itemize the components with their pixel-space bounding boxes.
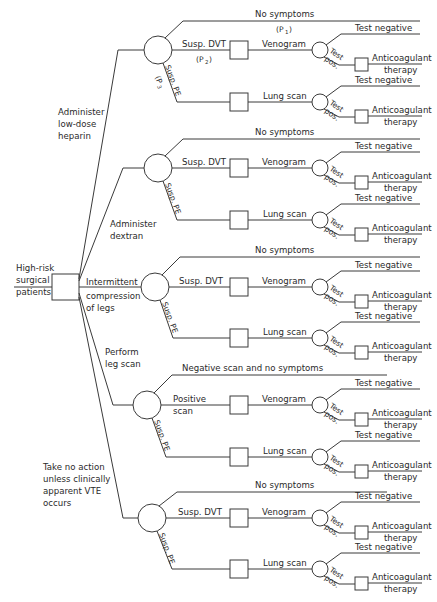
venogram-unit: Venogram Test negative Test pos. Anticoa… [230, 491, 432, 543]
svg-text:Susp. DVT: Susp. DVT [179, 276, 224, 286]
svg-text:(P: (P [196, 55, 204, 64]
svg-text:Lung scan: Lung scan [263, 327, 307, 337]
svg-text:therapy: therapy [384, 584, 417, 594]
venogram-unit: Venogram Test negative Test pos. Anticoa… [230, 378, 432, 430]
svg-text:2: 2 [205, 59, 209, 65]
subtree-no-action: No symptoms Susp. DVT Susp. PE [138, 480, 387, 569]
svg-text:Lung scan: Lung scan [263, 558, 307, 568]
svg-text:Venogram: Venogram [262, 276, 306, 286]
svg-text:therapy: therapy [384, 472, 417, 482]
venogram-unit: Venogram Test negative Test pos. Anticoa… [230, 260, 432, 312]
svg-text:apparent VTE: apparent VTE [43, 486, 101, 496]
svg-text:leg scan: leg scan [105, 359, 141, 369]
svg-text:therapy: therapy [384, 420, 417, 430]
venogram-unit: Venogram Test negative Test pos. Anticoa… [230, 23, 432, 75]
svg-text:Test negative: Test negative [354, 311, 412, 321]
svg-text:(P: (P [153, 75, 164, 86]
svg-text:Anticoagulant: Anticoagulant [372, 460, 432, 470]
svg-text:Venogram: Venogram [262, 157, 306, 167]
svg-text:Anticoagulant: Anticoagulant [372, 223, 432, 233]
chance-node [141, 273, 169, 301]
svg-text:): ) [289, 25, 292, 34]
svg-text:Susp. DVT: Susp. DVT [178, 507, 223, 517]
svg-text:Negative scan and no symptoms: Negative scan and no symptoms [182, 363, 324, 373]
svg-text:Anticoagulant: Anticoagulant [372, 105, 432, 115]
svg-text:Anticoagulant: Anticoagulant [372, 53, 432, 63]
svg-text:Lung scan: Lung scan [263, 209, 307, 219]
root-decision-square [52, 274, 79, 300]
svg-text:): ) [209, 55, 212, 64]
svg-text:Test negative: Test negative [354, 75, 412, 85]
svg-text:Anticoagulant: Anticoagulant [372, 521, 432, 531]
svg-text:Test negative: Test negative [354, 491, 412, 501]
svg-text:Test negative: Test negative [354, 193, 412, 203]
svg-text:Venogram: Venogram [262, 394, 306, 404]
svg-text:Susp. DVT: Susp. DVT [182, 157, 227, 167]
svg-text:compression: compression [86, 291, 141, 301]
svg-text:scan: scan [173, 406, 193, 416]
pe-label: Susp. PE [163, 64, 183, 98]
lung-scan-unit: Lung scan Test negative Test pos. Antico… [230, 311, 432, 363]
svg-text:therapy: therapy [384, 117, 417, 127]
strategy-labels: Administer low-dose heparin Administer d… [42, 107, 157, 508]
svg-text:Venogram: Venogram [262, 39, 306, 49]
svg-text:Susp. PE: Susp. PE [152, 419, 172, 453]
svg-text:Test negative: Test negative [354, 542, 412, 552]
strategy-4-label: Perform [105, 347, 139, 357]
svg-text:1: 1 [285, 29, 289, 35]
svg-text:unless clinically: unless clinically [43, 474, 110, 484]
svg-text:Test negative: Test negative [354, 23, 412, 33]
svg-text:Lung scan: Lung scan [263, 446, 307, 456]
svg-text:Anticoagulant: Anticoagulant [372, 290, 432, 300]
svg-text:3: 3 [156, 84, 163, 90]
lung-scan-unit: Lung scan Test negative Test pos. Antico… [230, 542, 432, 594]
strategy-2-label: Administer [110, 219, 157, 229]
svg-text:(P: (P [276, 25, 284, 34]
svg-text:Venogram: Venogram [262, 507, 306, 517]
svg-text:therapy: therapy [384, 353, 417, 363]
svg-text:Susp. PE: Susp. PE [160, 301, 180, 335]
svg-text:Anticoagulant: Anticoagulant [372, 408, 432, 418]
lung-scan-unit: Lung scan Test negative Test pos. Antico… [230, 430, 432, 482]
svg-text:Anticoagulant: Anticoagulant [372, 171, 432, 181]
root-label-line-2: surgical [16, 275, 50, 285]
svg-text:dextran: dextran [110, 231, 143, 241]
svg-text:Anticoagulant: Anticoagulant [372, 341, 432, 351]
root-label-line-1: High-risk [16, 263, 54, 273]
svg-text:occurs: occurs [43, 498, 72, 508]
top-outcome-label: No symptoms [255, 9, 315, 19]
chance-node [138, 504, 166, 532]
test-units: Venogram Test negative Test pos. Anticoa… [230, 23, 432, 594]
svg-text:No symptoms: No symptoms [255, 127, 315, 137]
lung-scan-unit: Lung scan Test negative Test pos. Antico… [230, 75, 432, 127]
root-label-line-3: patients [16, 287, 52, 297]
chance-node [133, 391, 161, 419]
svg-text:No symptoms: No symptoms [255, 245, 315, 255]
chance-node [144, 154, 172, 182]
svg-text:Test negative: Test negative [354, 141, 412, 151]
chance-node [144, 36, 172, 64]
svg-text:Positive: Positive [173, 394, 206, 404]
svg-text:therapy: therapy [384, 65, 417, 75]
dvt-label: Susp. DVT [182, 39, 227, 49]
svg-text:heparin: heparin [58, 131, 91, 141]
svg-text:Lung scan: Lung scan [263, 91, 307, 101]
strategy-3-label: Intermittent [86, 277, 138, 287]
svg-text:Susp. PE: Susp. PE [163, 182, 183, 216]
venogram-unit: Venogram Test negative Test pos. Anticoa… [230, 141, 432, 193]
strategy-1-label: Administer [58, 107, 105, 117]
decision-tree-diagram: High-risk surgical patients Administer l… [0, 0, 437, 602]
svg-text:therapy: therapy [384, 235, 417, 245]
svg-text:Test negative: Test negative [354, 430, 412, 440]
svg-text:Test negative: Test negative [354, 378, 412, 388]
svg-text:Susp. PE: Susp. PE [157, 532, 177, 566]
subtree-leg-scan: Negative scan and no symptoms Positive s… [133, 363, 387, 457]
svg-text:No symptoms: No symptoms [255, 480, 315, 490]
svg-text:therapy: therapy [384, 183, 417, 193]
lung-scan-unit: Lung scan Test negative Test pos. Antico… [230, 193, 432, 245]
root-decision-node: High-risk surgical patients [14, 263, 79, 300]
svg-text:Test negative: Test negative [354, 260, 412, 270]
svg-text:of legs: of legs [86, 303, 115, 313]
svg-text:low-dose: low-dose [58, 119, 96, 129]
strategy-5-label: Take no action [42, 462, 105, 472]
